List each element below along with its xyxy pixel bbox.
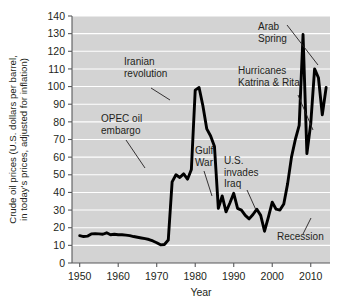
annotation-recession-line-1: Recession <box>277 231 324 242</box>
x-tick-label-2000: 2000 <box>261 270 285 282</box>
x-tick-label-1990: 1990 <box>222 270 246 282</box>
crude-oil-prices-line-chart: 0102030405060708090100110120130140195019… <box>0 0 343 305</box>
annotation-arab-spring-line-2: Spring <box>258 33 287 44</box>
y-axis-title-line1: Crude oil prices (U.S. dollars per barre… <box>7 55 18 224</box>
annotation-iranian-revolution-line-2: revolution <box>124 68 167 79</box>
annotation-gulf-war-line-2: War <box>195 157 214 168</box>
y-tick-label-30: 30 <box>53 204 65 216</box>
y-tick-label-80: 80 <box>53 116 65 128</box>
x-tick-label-1970: 1970 <box>145 270 169 282</box>
annotation-hurricanes-katrina-rita-line-1: Hurricanes <box>238 65 286 76</box>
x-tick-label-2010: 2010 <box>299 270 323 282</box>
y-tick-label-20: 20 <box>53 221 65 233</box>
annotation-us-invades-iraq-line-2: invades <box>224 167 258 178</box>
annotation-gulf-war-line-1: Gulf <box>195 145 214 156</box>
y-tick-label-40: 40 <box>53 186 65 198</box>
y-tick-label-10: 10 <box>53 239 65 251</box>
annotation-iranian-revolution-line-1: Iranian <box>124 56 155 67</box>
annotation-recession: Recession <box>277 231 324 242</box>
annotation-us-invades-iraq-line-1: U.S. <box>224 155 243 166</box>
y-tick-label-100: 100 <box>47 80 65 92</box>
y-tick-label-60: 60 <box>53 151 65 163</box>
y-tick-label-140: 140 <box>47 10 65 22</box>
x-tick-label-1980: 1980 <box>184 270 208 282</box>
annotation-hurricanes-katrina-rita-line-2: Katrina & Rita <box>238 77 300 88</box>
annotation-opec-oil-embargo: OPEC oilembargo <box>101 113 142 136</box>
x-tick-label-1960: 1960 <box>107 270 131 282</box>
annotation-opec-oil-embargo-line-2: embargo <box>101 125 141 136</box>
y-tick-label-110: 110 <box>48 63 65 75</box>
y-tick-label-120: 120 <box>47 45 65 57</box>
x-tick-label-1950: 1950 <box>68 270 92 282</box>
y-tick-label-130: 130 <box>47 27 65 39</box>
annotation-opec-oil-embargo-line-1: OPEC oil <box>101 113 142 124</box>
y-tick-label-50: 50 <box>53 168 65 180</box>
y-tick-label-0: 0 <box>59 257 65 269</box>
chart-figure: 0102030405060708090100110120130140195019… <box>0 0 343 305</box>
annotation-us-invades-iraq-line-3: Iraq <box>224 178 241 189</box>
annotation-gulf-war: GulfWar <box>195 145 214 168</box>
y-tick-label-90: 90 <box>53 98 65 110</box>
y-tick-label-70: 70 <box>53 133 65 145</box>
annotation-arab-spring-line-1: Arab <box>258 21 280 32</box>
x-axis-title: Year <box>190 286 212 298</box>
y-axis-title-line2: in today's prices, adjusted for inflatio… <box>18 58 29 221</box>
